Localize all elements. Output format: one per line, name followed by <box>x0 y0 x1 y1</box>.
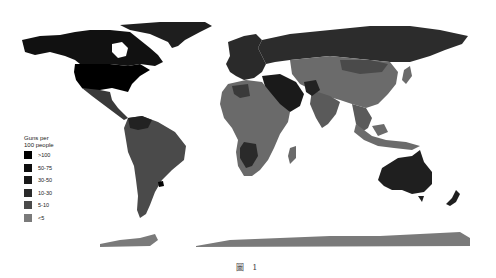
legend-swatch <box>24 164 32 172</box>
legend-label: 50-75 <box>38 165 52 171</box>
map-legend: Guns per 100 people >100 50-75 30-50 10-… <box>24 135 84 224</box>
region-new-zealand <box>446 190 460 206</box>
legend-items: >100 50-75 30-50 10-30 5-10 <5 <box>24 149 84 224</box>
legend-item: <5 <box>24 212 84 225</box>
legend-title-line1: Guns per <box>24 135 84 142</box>
legend-label: >100 <box>38 152 50 158</box>
legend-item: >100 <box>24 149 84 162</box>
legend-swatch <box>24 201 32 209</box>
legend-item: 50-75 <box>24 162 84 175</box>
legend-item: 5-10 <box>24 199 84 212</box>
region-southeast-asia <box>352 104 372 132</box>
legend-swatch <box>24 176 32 184</box>
region-australia <box>378 150 432 194</box>
figure-caption: 圖 1 <box>0 261 496 272</box>
region-south-america <box>124 116 186 218</box>
region-antarctica-west <box>100 234 158 247</box>
legend-swatch <box>24 189 32 197</box>
legend-item: 30-50 <box>24 174 84 187</box>
region-europe <box>226 34 266 80</box>
legend-label: 5-10 <box>38 202 49 208</box>
legend-title-line2: 100 people <box>24 142 84 149</box>
region-uruguay <box>158 181 164 187</box>
region-tasmania <box>418 196 424 202</box>
legend-label: <5 <box>38 215 44 221</box>
region-russia <box>258 26 468 64</box>
legend-item: 10-30 <box>24 187 84 200</box>
legend-swatch <box>24 151 32 159</box>
region-usa <box>74 64 150 92</box>
legend-label: 10-30 <box>38 190 52 196</box>
legend-swatch <box>24 214 32 222</box>
region-antarctica-east <box>196 232 470 247</box>
region-philippines-borneo <box>372 124 388 136</box>
region-canada <box>22 30 163 66</box>
legend-label: 30-50 <box>38 177 52 183</box>
region-central-america <box>82 88 128 120</box>
region-madagascar <box>288 146 296 164</box>
region-japan <box>402 66 412 84</box>
